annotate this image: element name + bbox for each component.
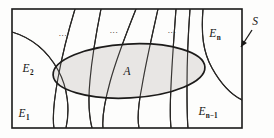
label-E2-subscript: 2	[30, 69, 34, 77]
label-E2-base: E	[21, 62, 29, 74]
label-Enm1-base: E	[197, 105, 205, 117]
label-A-base: A	[122, 65, 131, 77]
label-A: A	[122, 65, 131, 77]
diagram-canvas: ......... AE1E2EnEn−1S	[0, 0, 274, 138]
label-S: S	[252, 15, 258, 27]
label-Enm1-subscript: n−1	[206, 112, 218, 120]
ellipsis-right: ...	[168, 25, 177, 35]
ellipsis-left: ...	[59, 28, 68, 38]
label-E1-subscript: 1	[26, 114, 30, 122]
label-En-subscript: n	[217, 34, 221, 42]
label-E1-base: E	[17, 107, 25, 119]
label-S-base: S	[252, 15, 258, 27]
ellipsis-center: ...	[110, 25, 119, 35]
label-En-base: E	[208, 27, 216, 39]
partition-diagram-figure: ......... AE1E2EnEn−1S	[0, 0, 274, 138]
